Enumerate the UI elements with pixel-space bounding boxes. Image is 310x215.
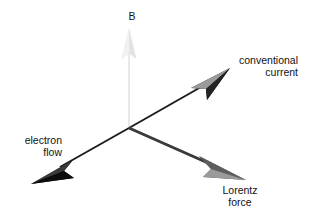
lorentz-force-shaft <box>129 128 208 163</box>
magnetic-field-label-text: B <box>122 10 142 22</box>
lorentz-force-label-line1: Lorentz <box>208 184 272 196</box>
electron-flow-label: electron flow <box>2 134 62 158</box>
conventional-current-shaft <box>129 83 208 128</box>
electron-flow-label-line2: flow <box>2 146 62 158</box>
conventional-current-label-line2: current <box>200 66 298 78</box>
electron-flow-shaft <box>60 128 129 167</box>
lorentz-force-label-line2: force <box>208 196 272 208</box>
conventional-current-label: conventional current <box>200 54 298 78</box>
electron-flow-label-line1: electron <box>2 134 62 146</box>
conventional-current-label-line1: conventional <box>200 54 298 66</box>
diagram-canvas: B conventional current electron flow Lor… <box>0 0 310 215</box>
magnetic-field-label: B <box>122 10 142 22</box>
vector-diagram <box>0 0 310 215</box>
magnetic-field-arrowhead-highlight <box>122 28 130 59</box>
lorentz-force-vector <box>129 128 246 180</box>
magnetic-field-vector <box>122 28 137 128</box>
lorentz-force-label: Lorentz force <box>208 184 272 208</box>
